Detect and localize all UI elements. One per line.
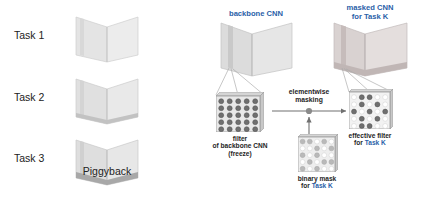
binary-mask-grid-svg (298, 134, 338, 172)
effective-filter-grid-svg (349, 89, 393, 129)
masking-junction-node (306, 108, 312, 114)
effective-task-k: Task K (365, 139, 386, 146)
task-network-2 (76, 79, 138, 124)
mask-for-prefix: for (301, 182, 312, 189)
grid-cell (359, 124, 364, 129)
masked-cnn-title-line2: for Task K (347, 13, 394, 22)
grid-cell (300, 160, 305, 165)
binary-mask-grid (298, 134, 338, 176)
grid-cell (244, 127, 249, 132)
figure-canvas: Task 1 Task 2 Task 3 Piggyback backbone … (0, 0, 422, 202)
masked-for-prefix: for (352, 12, 364, 21)
grid-cell (307, 139, 312, 144)
mask-caption-line1: binary mask (298, 175, 336, 182)
grid-cell (300, 139, 305, 144)
effective-for-prefix: for (354, 139, 365, 146)
grid-cell (307, 160, 312, 165)
grid-cell (219, 113, 224, 118)
grid-cell (315, 146, 320, 151)
task-network-1 (76, 17, 138, 62)
masked-task-k: Task K (364, 12, 388, 21)
backbone-filter-caption: filter of backbone CNN (freeze) (213, 135, 268, 157)
grid-cell (375, 109, 380, 114)
grid-cell (352, 116, 357, 121)
grid-cell (375, 124, 380, 129)
grid-cell (315, 160, 320, 165)
elementwise-masking-line2: masking (289, 96, 329, 104)
grid-cell (352, 102, 357, 107)
piggyback-caption: Piggyback (83, 166, 131, 178)
grid-cell (300, 153, 305, 158)
grid-cell (253, 106, 258, 111)
grid-cell (307, 153, 312, 158)
grid-cell (375, 102, 380, 107)
grid-cell (253, 120, 258, 125)
grid-cell (322, 146, 327, 151)
grid-cell (227, 113, 232, 118)
effective-caption-line1: effective filter (349, 132, 392, 139)
grid-cell (219, 106, 224, 111)
grid-cell (359, 95, 364, 100)
grid-cell (227, 120, 232, 125)
filter-caption-line2: of backbone CNN (213, 142, 268, 149)
grid-cell (375, 95, 380, 100)
grid-cell (352, 95, 357, 100)
filter-caption-line3: (freeze) (213, 150, 268, 157)
grid-cell (236, 127, 241, 132)
backbone-cnn-title: backbone CNN (229, 10, 283, 19)
grid-cell (307, 166, 312, 171)
grid-cell (236, 113, 241, 118)
grid-cell (322, 166, 327, 171)
grid-cell (383, 124, 388, 129)
grid-cell (322, 139, 327, 144)
grid-cell (253, 127, 258, 132)
grid-cell (244, 120, 249, 125)
grid-cell (315, 153, 320, 158)
grid-cell (322, 160, 327, 165)
grid-cell (383, 95, 388, 100)
grid-cell (329, 166, 334, 171)
effective-filter-caption: effective filter for Task K (349, 132, 392, 147)
grid-cell (383, 116, 388, 121)
grid-cell (219, 99, 224, 104)
effective-filter-grid (349, 89, 393, 133)
grid-cell (329, 153, 334, 158)
grid-cell (315, 166, 320, 171)
grid-cell (300, 166, 305, 171)
task-label-1: Task 1 (14, 30, 44, 42)
task-network-3 (76, 140, 138, 185)
masked-cnn-shape (334, 23, 407, 76)
grid-cell (329, 160, 334, 165)
backbone-highlight-slice (228, 25, 233, 69)
grid-cell (322, 153, 327, 158)
grid-cell (352, 109, 357, 114)
grid-cell (329, 139, 334, 144)
grid-cell (236, 106, 241, 111)
grid-cell (244, 106, 249, 111)
grid-cell (236, 120, 241, 125)
masked-cnn-title: masked CNN for Task K (347, 4, 394, 21)
grid-cell (253, 99, 258, 104)
grid-cell (253, 113, 258, 118)
grid-cell (367, 124, 372, 129)
backbone-filter-grid-svg (216, 92, 264, 132)
grid-cell (300, 146, 305, 151)
grid-cell (359, 116, 364, 121)
grid-cell (329, 146, 334, 151)
binary-mask-caption: binary mask for Task K (298, 175, 336, 190)
grid-cell (307, 146, 312, 151)
grid-cell (383, 102, 388, 107)
grid-cell (359, 102, 364, 107)
elementwise-masking-line1: elementwise (289, 88, 329, 96)
grid-cell (367, 102, 372, 107)
task-label-2: Task 2 (14, 92, 44, 104)
effective-caption-line2: for Task K (349, 139, 392, 146)
backbone-cnn-shape (221, 23, 292, 76)
elementwise-masking-label: elementwise masking (289, 88, 329, 103)
grid-cell (227, 127, 232, 132)
grid-cell (367, 116, 372, 121)
grid-cell (219, 120, 224, 125)
mask-caption-line2: for Task K (298, 182, 336, 189)
grid-cell (236, 99, 241, 104)
grid-cell (359, 109, 364, 114)
